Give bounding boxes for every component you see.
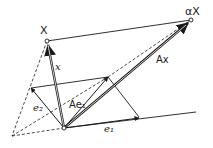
- point-origin: [62, 126, 66, 130]
- label-point-alpha-x: αX: [185, 5, 200, 18]
- line-e2-parallel: [31, 77, 108, 88]
- label-vector-x: x: [55, 61, 61, 72]
- dashed-ae1-to-alphax: [108, 20, 191, 77]
- dashed-corner-to-origin: [12, 128, 64, 136]
- diagram-canvas: X αX x Ax e₁ e₂ Ae₁: [0, 0, 213, 148]
- dashed-x-to-corner: [12, 41, 47, 136]
- label-vector-ae1: Ae₁: [69, 99, 86, 110]
- label-vector-ax: Ax: [156, 54, 169, 65]
- label-vector-e2: e₂: [33, 102, 43, 113]
- label-vector-e1: e₁: [104, 123, 114, 134]
- label-point-x: X: [40, 24, 48, 37]
- point-alpha-x: [189, 18, 193, 22]
- line-ae1-to-e1: [108, 77, 139, 117]
- point-x: [45, 39, 49, 43]
